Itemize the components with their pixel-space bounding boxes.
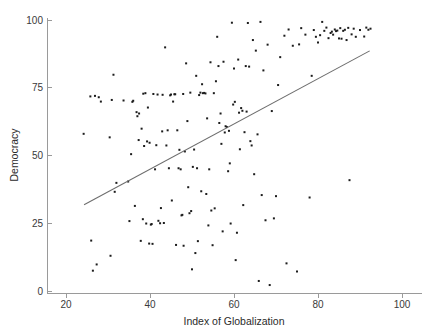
data-point xyxy=(114,191,116,193)
data-point xyxy=(195,75,197,77)
data-point xyxy=(181,214,183,216)
data-point xyxy=(146,140,148,142)
data-point xyxy=(344,29,346,31)
data-point xyxy=(188,212,190,214)
data-point xyxy=(331,31,333,33)
data-point xyxy=(212,244,214,246)
data-point xyxy=(183,245,185,247)
data-point xyxy=(92,270,94,272)
data-point xyxy=(143,145,145,147)
data-point xyxy=(199,92,201,94)
data-point xyxy=(336,30,338,32)
data-point xyxy=(217,65,219,67)
data-point xyxy=(313,29,315,31)
y-tick-label: 100 xyxy=(26,15,43,26)
y-tick-label: 50 xyxy=(32,150,44,161)
data-point xyxy=(159,222,161,224)
data-point xyxy=(157,94,159,96)
data-point xyxy=(208,168,210,170)
data-point xyxy=(242,204,244,206)
data-point xyxy=(132,100,134,102)
data-point xyxy=(152,93,154,95)
data-point xyxy=(174,93,176,95)
data-point xyxy=(238,112,240,114)
data-point xyxy=(178,167,180,169)
data-point xyxy=(142,218,144,220)
data-point xyxy=(142,93,144,95)
x-tick-label: 60 xyxy=(228,299,240,310)
data-point xyxy=(231,22,233,24)
data-point xyxy=(279,56,281,58)
x-tick-label: 20 xyxy=(60,299,72,310)
data-point xyxy=(328,37,330,39)
data-point xyxy=(237,59,239,61)
data-point xyxy=(261,194,263,196)
data-point xyxy=(275,195,277,197)
data-point xyxy=(257,133,259,135)
data-point xyxy=(259,21,261,23)
y-tick-label: 75 xyxy=(32,82,44,93)
data-point xyxy=(171,199,173,201)
data-point xyxy=(180,168,182,170)
data-point xyxy=(167,129,169,131)
data-point xyxy=(296,270,298,272)
data-point xyxy=(239,148,241,150)
data-point xyxy=(218,122,220,124)
data-point xyxy=(134,205,136,207)
data-point xyxy=(355,36,357,38)
data-point xyxy=(100,101,102,103)
data-point xyxy=(164,46,166,48)
data-point xyxy=(319,34,321,36)
data-point xyxy=(198,94,200,96)
data-point xyxy=(240,107,242,109)
data-point xyxy=(216,36,218,38)
data-point xyxy=(338,37,340,39)
data-point xyxy=(363,36,365,38)
data-point xyxy=(154,168,156,170)
x-tick-labels: 20 40 60 80 100 xyxy=(60,299,410,310)
data-point xyxy=(288,28,290,30)
data-point xyxy=(115,182,117,184)
data-point xyxy=(162,94,164,96)
data-point xyxy=(311,75,313,77)
data-point xyxy=(98,96,100,98)
data-point xyxy=(222,230,224,232)
data-point xyxy=(353,28,355,30)
y-tick-labels: 100 75 50 25 0 xyxy=(26,15,43,297)
data-point xyxy=(187,186,189,188)
data-point xyxy=(191,268,193,270)
data-point xyxy=(253,173,255,175)
data-point xyxy=(204,92,206,94)
data-point xyxy=(194,252,196,254)
data-point xyxy=(244,131,246,133)
x-axis-title: Index of Globalization xyxy=(184,315,285,327)
data-point xyxy=(168,167,170,169)
data-point xyxy=(189,92,191,94)
data-point xyxy=(323,30,325,32)
data-point xyxy=(178,149,180,151)
plot-area: 100 75 50 25 0 20 40 60 80 100 Index of … xyxy=(0,0,432,332)
data-point xyxy=(145,223,147,225)
data-point xyxy=(112,74,114,76)
data-point xyxy=(96,263,98,265)
data-point xyxy=(265,219,267,221)
data-point xyxy=(315,36,317,38)
data-point xyxy=(273,217,275,219)
data-point xyxy=(193,149,195,151)
data-point xyxy=(170,94,172,96)
data-point xyxy=(123,99,125,101)
data-point xyxy=(252,39,254,41)
data-point xyxy=(209,61,211,63)
data-point xyxy=(214,207,216,209)
data-point xyxy=(157,220,159,222)
data-point xyxy=(251,144,253,146)
data-point xyxy=(220,143,222,145)
data-point xyxy=(233,68,235,70)
data-point xyxy=(351,33,353,35)
data-point xyxy=(215,80,217,82)
data-point xyxy=(192,166,194,168)
data-point xyxy=(367,29,369,31)
data-point xyxy=(258,280,260,282)
data-point xyxy=(205,193,207,195)
data-point xyxy=(304,34,306,36)
